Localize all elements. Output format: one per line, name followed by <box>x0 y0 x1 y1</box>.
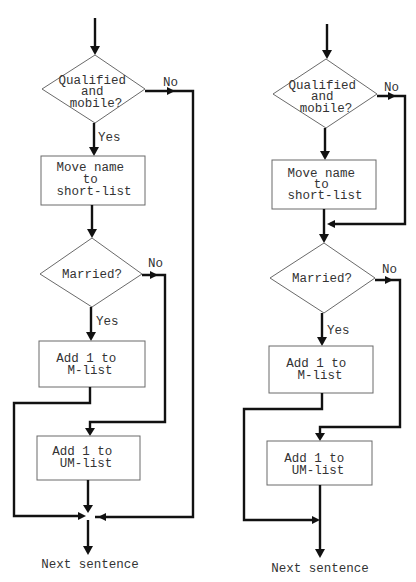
arrowhead-icon <box>98 513 106 521</box>
flowchart-left: Qualified and mobile? No Yes Move name t… <box>14 18 193 572</box>
flowchart-canvas: Qualified and mobile? No Yes Move name t… <box>0 0 416 582</box>
exit-label: Next sentence <box>271 562 369 576</box>
no-label: No <box>163 76 178 90</box>
arrowhead-icon <box>317 337 327 346</box>
decision-married-text: Married? <box>62 268 122 282</box>
process-um-list-text: Add 1 to UM-list <box>284 452 352 478</box>
arrowhead-icon <box>83 546 93 555</box>
arrowhead-icon <box>150 271 158 279</box>
no-label: No <box>148 257 163 271</box>
arrowhead-icon <box>87 229 97 238</box>
arrowhead-icon <box>83 505 93 513</box>
arrowhead-icon <box>85 428 95 436</box>
no-label: No <box>384 81 399 95</box>
arrowhead-icon <box>322 50 332 59</box>
arrowhead-icon <box>319 234 329 243</box>
yes-label: Yes <box>327 324 350 338</box>
exit-label: Next sentence <box>41 558 139 572</box>
arrowhead-icon <box>86 332 96 341</box>
no-label: No <box>382 263 397 277</box>
arrowhead-icon <box>89 147 99 156</box>
flowchart-right: Qualified and mobile? No Move name to sh… <box>244 24 405 576</box>
arrowhead-icon <box>320 151 330 160</box>
process-um-list-text: Add 1 to UM-list <box>52 445 120 471</box>
yes-label: Yes <box>98 131 121 145</box>
yes-label: Yes <box>96 315 119 329</box>
arrowhead-icon <box>90 46 100 55</box>
decision-married-text: Married? <box>292 272 352 286</box>
arrowhead-icon <box>315 549 325 558</box>
arrowhead-icon <box>385 276 393 284</box>
arrowhead-icon <box>327 220 335 228</box>
arrowhead-icon <box>78 512 86 520</box>
arrowhead-icon <box>315 433 325 441</box>
